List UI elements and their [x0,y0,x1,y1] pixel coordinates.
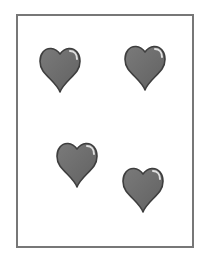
heart-icon [38,44,82,94]
heart-icon [123,42,167,92]
heart-icon [121,164,165,214]
heart-icon [55,139,99,189]
